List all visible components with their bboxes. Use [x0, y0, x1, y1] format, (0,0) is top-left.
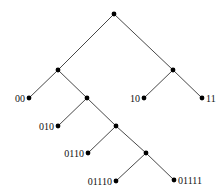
- leaf-node-00: [27, 96, 32, 101]
- node-label-010: 010: [39, 121, 54, 132]
- tree-edge: [58, 98, 87, 126]
- tree-labels: 00101101001100111001111: [15, 93, 216, 187]
- internal-node-n0: [56, 68, 61, 73]
- internal-node-n0111: [144, 151, 149, 156]
- tree-edge: [116, 126, 146, 153]
- tree-edge: [29, 70, 58, 98]
- node-label-11: 11: [206, 93, 216, 104]
- binary-tree-diagram: 00101101001100111001111: [0, 0, 220, 196]
- leaf-node-0110: [86, 151, 91, 156]
- leaf-node-01111: [172, 178, 177, 183]
- tree-nodes: [27, 12, 205, 184]
- leaf-node-01110: [114, 179, 119, 184]
- tree-edge: [88, 126, 116, 153]
- tree-edge: [58, 14, 114, 70]
- tree-edge: [58, 70, 87, 98]
- internal-node-n01: [85, 96, 90, 101]
- leaf-node-10: [142, 96, 147, 101]
- node-label-10: 10: [130, 93, 140, 104]
- tree-edge: [173, 70, 202, 98]
- node-label-0110: 0110: [64, 148, 84, 159]
- tree-edge: [114, 14, 173, 70]
- tree-edge: [144, 70, 173, 98]
- internal-node-n1: [171, 68, 176, 73]
- tree-edge: [87, 98, 116, 126]
- tree-edge: [146, 153, 174, 180]
- leaf-node-11: [200, 96, 205, 101]
- node-label-01110: 01110: [88, 176, 112, 187]
- internal-node-n011: [114, 124, 119, 129]
- leaf-node-010: [56, 124, 61, 129]
- node-label-01111: 01111: [178, 175, 202, 186]
- tree-edge: [116, 153, 146, 181]
- internal-node-root: [112, 12, 117, 17]
- node-label-00: 00: [15, 93, 25, 104]
- tree-edges: [29, 14, 202, 181]
